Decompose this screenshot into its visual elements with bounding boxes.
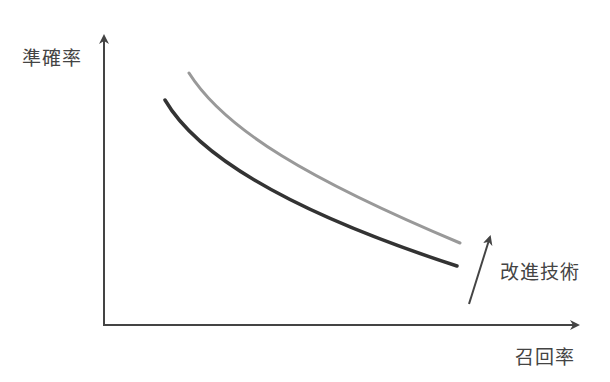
y-axis-label: 準確率 bbox=[22, 43, 82, 70]
precision-recall-diagram bbox=[0, 0, 610, 382]
baseline-curve bbox=[165, 100, 457, 266]
x-axis-label: 召回率 bbox=[515, 342, 575, 369]
improvement-label: 改進技術 bbox=[500, 257, 580, 284]
improvement-arrow bbox=[469, 237, 490, 304]
